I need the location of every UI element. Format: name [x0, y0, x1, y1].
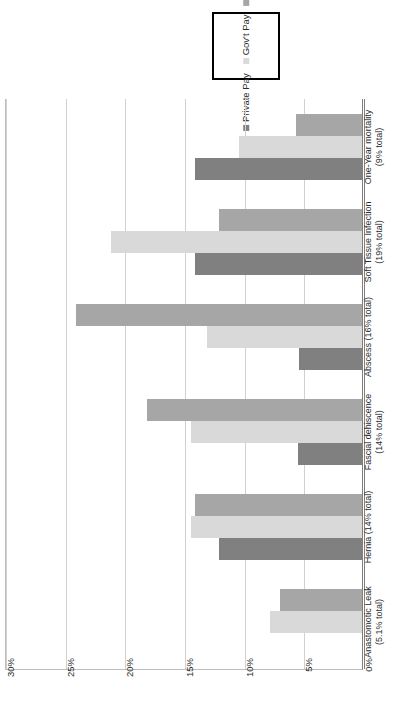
legend-item-self-pay: Self Pay: [241, 0, 251, 5]
bar-group: [6, 194, 362, 289]
tick-label-0: 0%: [363, 658, 374, 698]
bar: [270, 611, 362, 633]
tick-label-5: 5%: [303, 658, 314, 698]
value-axis-tick-labels: 30%25%20%15%10%5%0%: [0, 672, 400, 720]
bar: [296, 114, 362, 136]
bar: [298, 443, 362, 465]
category-axis-labels: One-Year mortality(9% total)Soft Tissue …: [363, 99, 400, 670]
legend-swatch-self-pay: [243, 0, 249, 5]
bar: [299, 348, 362, 370]
category-label-line2: (14% total): [374, 372, 385, 492]
category-label-line2: (5.1% total): [374, 562, 385, 682]
legend-label-govt-pay: Gov't Pay: [241, 14, 251, 55]
bar: [76, 304, 362, 326]
bar: [219, 209, 362, 231]
tick-label-25: 25%: [65, 658, 76, 698]
tick-label-20: 20%: [124, 658, 135, 698]
bar: [111, 231, 362, 253]
bar: [195, 253, 362, 275]
bar-group: [6, 99, 362, 194]
bar: [239, 136, 362, 158]
plot-area: [5, 99, 363, 670]
bar-chart: Private Pay Gov't Pay Self Pay One-Year …: [0, 0, 400, 720]
chart-legend: Private Pay Gov't Pay Self Pay: [212, 12, 280, 80]
category-label-line2: (19% total): [374, 182, 385, 302]
bar: [207, 326, 362, 348]
bar-group: [6, 385, 362, 480]
bar: [191, 421, 362, 443]
bar-group: [6, 480, 362, 575]
legend-swatch-govt-pay: [243, 58, 249, 64]
tick-label-30: 30%: [5, 658, 16, 698]
legend-item-govt-pay: Gov't Pay: [241, 14, 251, 64]
bar: [280, 589, 362, 611]
bar-group: [6, 289, 362, 384]
bar: [191, 516, 362, 538]
bar: [219, 538, 362, 560]
bar-group: [6, 575, 362, 670]
tick-label-10: 10%: [244, 658, 255, 698]
bar: [147, 399, 362, 421]
bar: [195, 494, 362, 516]
tick-label-15: 15%: [184, 658, 195, 698]
bar: [195, 158, 362, 180]
